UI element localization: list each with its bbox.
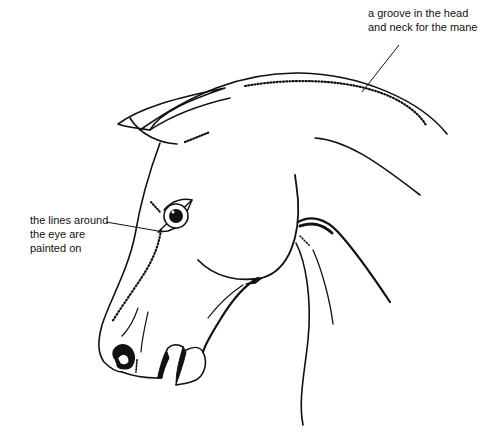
chest-hatching-small xyxy=(300,236,310,246)
eye-lines-label-line-2: the eye are xyxy=(30,227,108,241)
lower-lip-line xyxy=(186,348,203,352)
neck-line-upper xyxy=(315,138,420,195)
eye-lines-label: the lines around the eye are painted on xyxy=(30,213,108,255)
brow-hatching xyxy=(185,132,210,142)
neck-line-inner xyxy=(313,250,333,324)
mane-groove-label: a groove in the head and neck for the ma… xyxy=(368,6,477,34)
mane-leader-line xyxy=(362,45,399,92)
face-front-line xyxy=(99,143,160,372)
eye-lines-label-line-3: painted on xyxy=(30,241,108,255)
eye-pupil xyxy=(169,209,183,223)
muzzle-fold-1 xyxy=(122,308,138,336)
mane-groove-label-line-2: and neck for the mane xyxy=(368,20,477,34)
eye-hatching-upper xyxy=(151,202,160,212)
mane-groove-label-line-1: a groove in the head xyxy=(368,6,477,20)
horse-head-figure: a groove in the head and neck for the ma… xyxy=(0,0,481,447)
mane-groove-dots xyxy=(245,81,426,125)
brow-line xyxy=(130,118,177,144)
chest-bulge xyxy=(298,218,390,302)
throat-line-outer xyxy=(203,278,258,352)
muzzle-fold-2 xyxy=(141,312,148,352)
jowl-arc xyxy=(198,175,298,279)
lower-jaw xyxy=(176,347,186,385)
nostril-hatching xyxy=(136,360,137,372)
eye-leader-line xyxy=(106,222,158,231)
neck-line-front xyxy=(296,243,309,425)
cheek-hatching xyxy=(112,230,161,322)
eye-highlight xyxy=(172,211,175,214)
eye-lines-label-line-1: the lines around xyxy=(30,213,108,227)
chest-hatching xyxy=(300,224,332,233)
